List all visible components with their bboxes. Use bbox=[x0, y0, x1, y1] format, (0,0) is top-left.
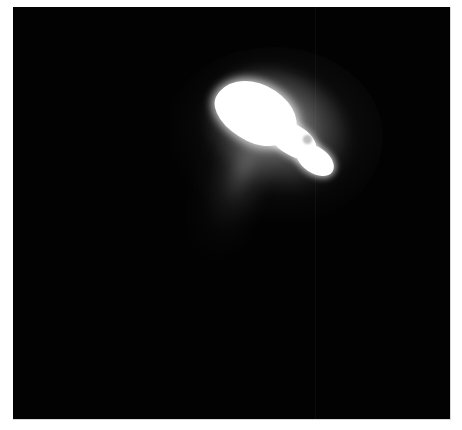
surface-feature bbox=[303, 135, 312, 144]
astronomy-image-frame bbox=[13, 7, 451, 420]
